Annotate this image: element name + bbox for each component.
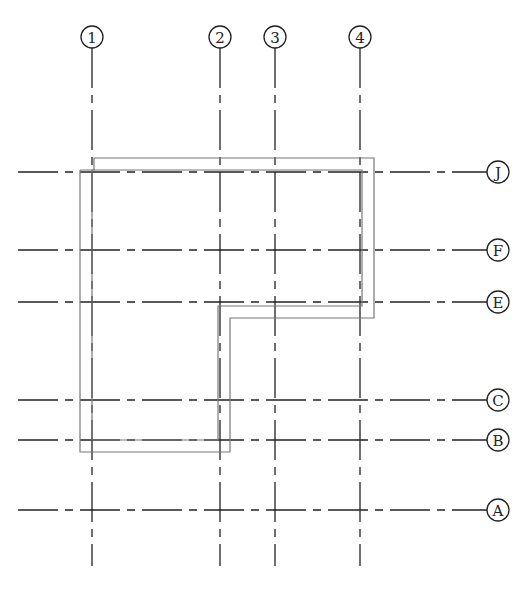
axis-label: C — [492, 392, 503, 410]
axis-label: 2 — [215, 29, 225, 47]
axis-label: B — [492, 432, 503, 450]
axis-4: 4 — [349, 26, 371, 566]
axis-grid-plan: 1234 JFECBA — [0, 0, 522, 595]
axis-label: 1 — [87, 29, 97, 47]
wall-outline-outer — [80, 158, 374, 452]
axis-label: A — [492, 502, 504, 520]
axis-label: 4 — [355, 29, 365, 47]
axis-label: J — [493, 164, 501, 182]
axis-label: 3 — [270, 29, 280, 47]
axis-label: F — [493, 242, 503, 260]
axis-label: E — [493, 294, 504, 312]
vertical-axes: 1234 — [81, 26, 371, 566]
axis-3: 3 — [264, 26, 286, 566]
axis-2: 2 — [209, 26, 231, 566]
